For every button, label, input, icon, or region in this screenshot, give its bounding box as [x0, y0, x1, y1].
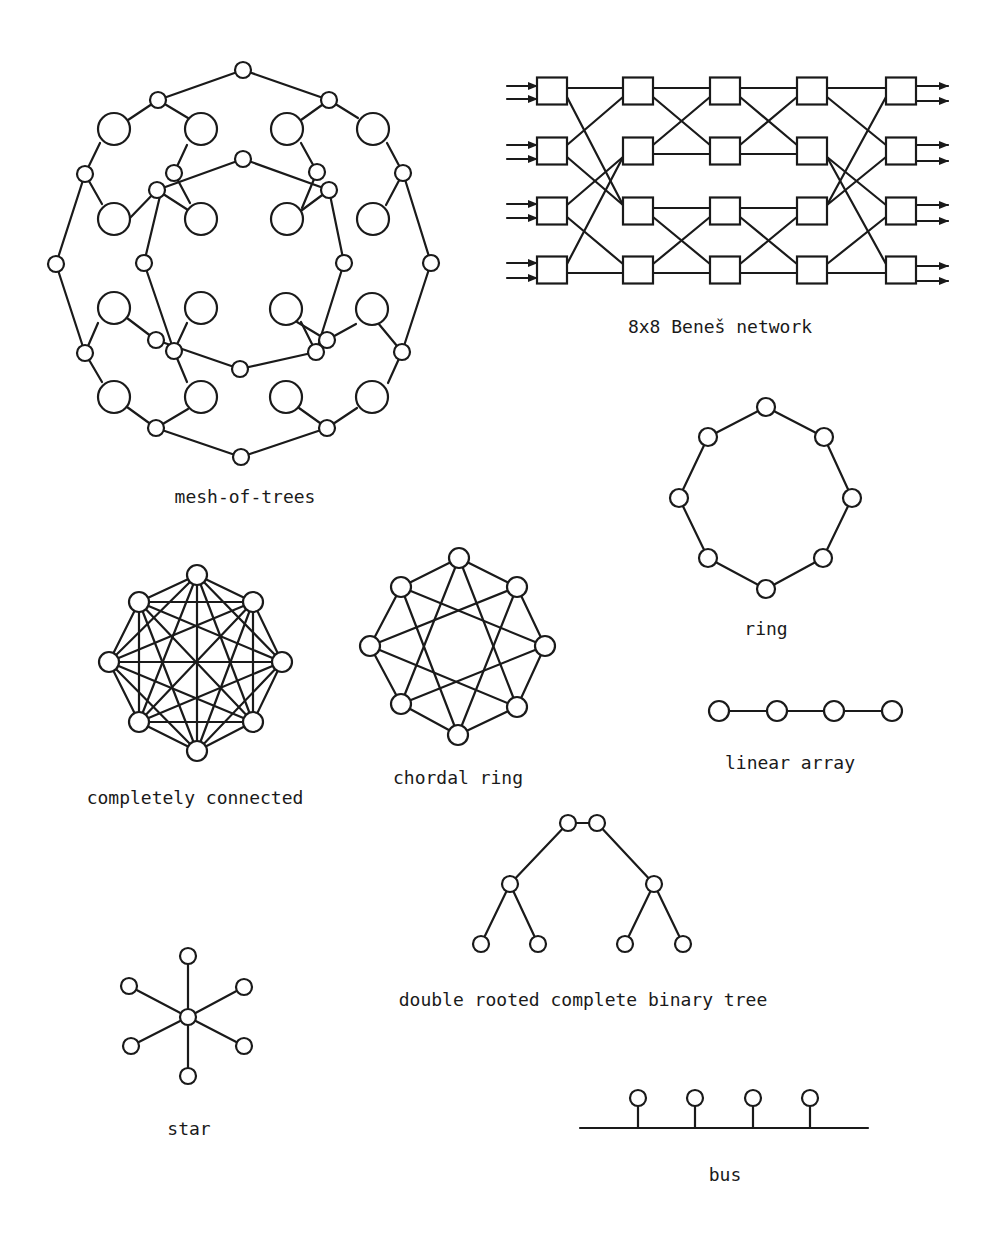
mesh-tree-node: [321, 182, 337, 198]
mesh-leaf-processor: [270, 293, 302, 325]
mesh-tree-node: [150, 92, 166, 108]
star-leaf: [180, 948, 196, 964]
mesh-tree-node: [166, 165, 182, 181]
mesh-tree-node: [308, 344, 324, 360]
tree-node: [560, 815, 576, 831]
mesh-edge: [156, 428, 241, 457]
mesh-tree-node: [148, 332, 164, 348]
benes-switch: [797, 198, 827, 225]
benes-switch: [623, 138, 653, 165]
mesh-leaf-processor: [98, 381, 130, 413]
benes-switch: [886, 257, 916, 284]
ring-node: [670, 489, 688, 507]
mesh-edge: [329, 190, 344, 263]
complete-node: [243, 712, 263, 732]
ring-node: [815, 428, 833, 446]
linear-node: [767, 701, 787, 721]
mesh-tree-node: [336, 255, 352, 271]
mesh-tree-node: [136, 255, 152, 271]
chordal-node: [391, 694, 411, 714]
benes-switch: [886, 138, 916, 165]
ring-node: [757, 398, 775, 416]
mesh-tree-node: [319, 420, 335, 436]
tree-node: [589, 815, 605, 831]
star-diagram: [121, 948, 252, 1084]
star-edge: [131, 1017, 188, 1046]
mesh-of-trees-label: mesh-of-trees: [175, 486, 316, 507]
star-leaf: [121, 978, 137, 994]
mesh-leaf-processor: [271, 203, 303, 235]
chordal-node: [535, 636, 555, 656]
tree-node: [502, 876, 518, 892]
mesh-leaf-processor: [98, 203, 130, 235]
complete-node: [187, 565, 207, 585]
chord-edge: [401, 587, 458, 735]
star-leaf: [180, 1068, 196, 1084]
ring-label: ring: [744, 618, 787, 639]
linear-node: [709, 701, 729, 721]
benes-switch: [797, 257, 827, 284]
mesh-edge: [403, 173, 431, 263]
benes-switch: [797, 78, 827, 105]
chordal-node: [449, 548, 469, 568]
mesh-edge: [56, 174, 85, 264]
mesh-tree-node: [48, 256, 64, 272]
complete-node: [99, 652, 119, 672]
ring-node: [699, 549, 717, 567]
double-rooted-tree-label: double rooted complete binary tree: [399, 989, 767, 1010]
network-topologies-figure: mesh-of-trees 8x8 Beneš network ring lin…: [0, 0, 992, 1234]
mesh-tree-node: [309, 164, 325, 180]
benes-switch: [797, 138, 827, 165]
star-leaf: [236, 1038, 252, 1054]
mesh-edge: [240, 352, 316, 369]
complete-edge: [109, 602, 253, 662]
chordal-node: [391, 577, 411, 597]
benes-switch: [623, 78, 653, 105]
completely-connected-label: completely connected: [87, 787, 304, 808]
complete-node: [272, 652, 292, 672]
mesh-leaf-processor: [185, 292, 217, 324]
benes-switch: [710, 78, 740, 105]
complete-node: [129, 592, 149, 612]
bus-node: [745, 1090, 761, 1106]
benes-link: [567, 97, 623, 205]
mesh-leaf-processor: [98, 292, 130, 324]
benes-switch: [537, 78, 567, 105]
benes-link: [827, 157, 886, 264]
tree-node: [473, 936, 489, 952]
benes-switch: [710, 198, 740, 225]
mesh-tree-node: [148, 420, 164, 436]
mesh-edge: [243, 70, 329, 100]
benes-link: [567, 157, 623, 264]
chordal-node: [507, 697, 527, 717]
tree-edge: [625, 884, 654, 944]
tree-node: [646, 876, 662, 892]
linear-array-label: linear array: [725, 752, 855, 773]
completely-connected-diagram: [99, 565, 292, 761]
mesh-tree-node: [232, 361, 248, 377]
benes-network-diagram: [507, 78, 948, 284]
mesh-leaf-processor: [185, 203, 217, 235]
double-rooted-tree-diagram: [473, 815, 691, 952]
bus-node: [630, 1090, 646, 1106]
mesh-leaf-processor: [356, 381, 388, 413]
mesh-tree-node: [166, 343, 182, 359]
tree-node: [675, 936, 691, 952]
mesh-leaf-processor: [271, 113, 303, 145]
benes-switch: [537, 257, 567, 284]
ring-edge: [679, 437, 708, 498]
linear-node: [824, 701, 844, 721]
ring-node: [843, 489, 861, 507]
benes-link: [827, 217, 886, 264]
star-edge: [129, 986, 188, 1017]
benes-switch: [710, 257, 740, 284]
mesh-tree-node: [77, 345, 93, 361]
chordal-node: [507, 577, 527, 597]
mesh-leaf-processor: [185, 381, 217, 413]
star-edge: [188, 987, 244, 1017]
mesh-tree-node: [235, 151, 251, 167]
benes-switch: [886, 198, 916, 225]
tree-edge: [510, 884, 538, 944]
mesh-leaf-processor: [356, 293, 388, 325]
star-label: star: [167, 1118, 211, 1139]
